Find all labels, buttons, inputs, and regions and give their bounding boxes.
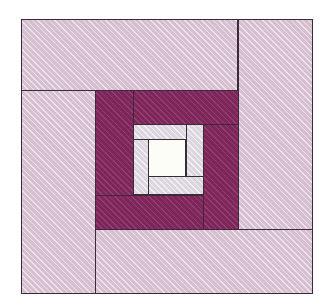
quilt-patch-inner-left: [133, 139, 149, 195]
quilt-patch-outer-right: [238, 19, 313, 230]
quilt-patch-mid-top: [133, 90, 239, 125]
quilt-patch-center-square: [148, 139, 186, 177]
quilt-block-diagram: [0, 0, 333, 306]
quilt-patch-outer-bottom: [95, 229, 313, 294]
quilt-patch-mid-right: [203, 124, 239, 230]
quilt-patch-inner-bottom: [148, 176, 204, 195]
quilt-patch-mid-bottom: [95, 195, 204, 230]
quilt-patch-outer-top: [21, 19, 238, 91]
quilt-patch-outer-left: [21, 90, 96, 294]
quilt-patch-mid-left: [95, 90, 134, 196]
